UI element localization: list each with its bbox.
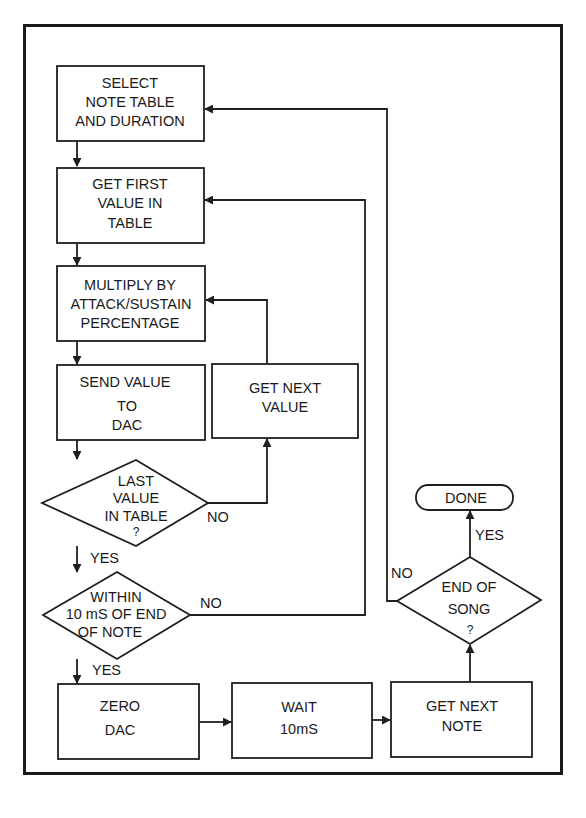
- edge-label-within-yes: YES: [92, 662, 121, 678]
- node-label: VALUE: [262, 399, 309, 415]
- node-decision-end-of-song: END OF SONG ?: [397, 557, 541, 644]
- arrow-endofsong-no-to-select: [205, 109, 397, 601]
- node-send-value-to-dac: SEND VALUE TO DAC: [57, 365, 205, 440]
- node-label: OF NOTE: [78, 624, 143, 640]
- arrow-getnextvalue-to-multiply: [206, 300, 267, 363]
- edge-label-within-no: NO: [200, 595, 222, 611]
- flowchart-diagram: SELECT NOTE TABLE AND DURATION GET FIRST…: [0, 0, 586, 818]
- node-label: WITHIN: [90, 589, 142, 605]
- edge-label-lastvalue-yes: YES: [90, 550, 119, 566]
- node-decision-last-value: LAST VALUE IN TABLE ?: [42, 460, 208, 546]
- node-label: SELECT: [102, 75, 159, 91]
- node-zero-dac: ZERO DAC: [58, 684, 199, 759]
- node-label: DAC: [112, 417, 143, 433]
- node-label: SEND VALUE: [80, 374, 171, 390]
- node-label: AND DURATION: [75, 113, 184, 129]
- node-get-next-note: GET NEXT NOTE: [391, 682, 532, 757]
- node-label: ?: [133, 525, 140, 539]
- edge-label-endsong-yes: YES: [475, 527, 504, 543]
- node-label: NOTE: [442, 718, 483, 734]
- node-label: WAIT: [281, 699, 317, 715]
- node-label: TO: [117, 398, 137, 414]
- node-label: DAC: [105, 722, 136, 738]
- node-terminal-done: DONE: [416, 485, 513, 510]
- node-multiply-attack-sustain: MULTIPLY BY ATTACK/SUSTAIN PERCENTAGE: [57, 266, 205, 341]
- node-wait-10ms: WAIT 10mS: [232, 683, 372, 758]
- arrow-lastvalue-no-to-getnextvalue: [208, 439, 267, 503]
- node-label: SONG: [448, 601, 491, 617]
- node-label: 10 mS OF END: [66, 606, 167, 622]
- edge-label-endsong-no: NO: [391, 565, 413, 581]
- node-label: END OF: [442, 579, 497, 595]
- node-label: IN TABLE: [104, 508, 167, 524]
- node-label: DONE: [445, 490, 487, 506]
- node-decision-within-10ms: WITHIN 10 mS OF END OF NOTE: [43, 572, 190, 659]
- node-label: VALUE: [113, 490, 160, 506]
- node-label: MULTIPLY BY: [84, 277, 176, 293]
- edge-label-lastvalue-no: NO: [207, 509, 229, 525]
- node-label: PERCENTAGE: [81, 315, 180, 331]
- node-label: TABLE: [108, 215, 153, 231]
- node-label: NOTE TABLE: [86, 94, 175, 110]
- node-select-note-table: SELECT NOTE TABLE AND DURATION: [57, 66, 204, 141]
- node-get-first-value: GET FIRST VALUE IN TABLE: [57, 168, 204, 243]
- node-label: 10mS: [280, 721, 318, 737]
- node-label: GET NEXT: [249, 380, 321, 396]
- node-label: GET FIRST: [92, 176, 168, 192]
- node-label: VALUE IN: [97, 195, 162, 211]
- node-label: LAST: [118, 473, 154, 489]
- node-label: GET NEXT: [426, 698, 498, 714]
- node-label: ?: [467, 623, 474, 637]
- node-get-next-value: GET NEXT VALUE: [212, 364, 358, 438]
- node-label: ATTACK/SUSTAIN: [71, 296, 192, 312]
- node-label: ZERO: [100, 698, 140, 714]
